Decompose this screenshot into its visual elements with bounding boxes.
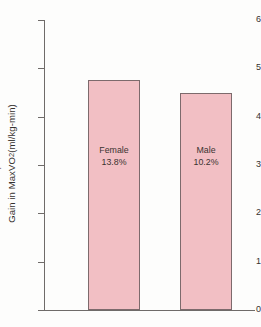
bar-category-label: Male (196, 145, 215, 155)
bar-category-label: Female (99, 145, 128, 155)
bar-value-label: 10.2% (181, 156, 231, 168)
bar-label-group: Female13.8% (89, 144, 139, 168)
y-axis-title-subscript: 2 (7, 153, 16, 157)
y-axis-title-suffix: (ml/kg-min) (6, 104, 17, 153)
y-tick-label: 4 (227, 111, 261, 121)
y-axis-title-o: O (6, 157, 17, 165)
y-tick-mark (38, 20, 44, 21)
bar-male: Male10.2% (180, 93, 232, 311)
x-axis-line (44, 310, 255, 311)
y-tick-label: 0 (227, 304, 261, 314)
y-tick-label: 5 (227, 62, 261, 72)
y-tick-mark (38, 117, 44, 118)
y-tick-label: 6 (227, 14, 261, 24)
y-tick-mark (38, 68, 44, 69)
y-tick-mark (38, 213, 44, 214)
y-tick-mark (38, 165, 44, 166)
bar-value-label: 13.8% (89, 156, 139, 168)
bar-label-group: Male10.2% (181, 144, 231, 168)
y-tick-label: 1 (227, 256, 261, 266)
bar-chart-figure: Gain in Max VO2 (ml/kg-min) 0123456 Fema… (0, 0, 261, 327)
y-tick-mark (38, 262, 44, 263)
bar-female: Female13.8% (88, 80, 140, 310)
v-dot-symbol: V (6, 165, 17, 171)
y-tick-label: 3 (227, 159, 261, 169)
y-axis-title: Gain in Max VO2 (ml/kg-min) (0, 0, 22, 327)
y-axis-title-prefix: Gain in Max (6, 171, 17, 223)
y-axis-line (44, 20, 45, 311)
y-tick-label: 2 (227, 207, 261, 217)
y-tick-mark (38, 310, 44, 311)
